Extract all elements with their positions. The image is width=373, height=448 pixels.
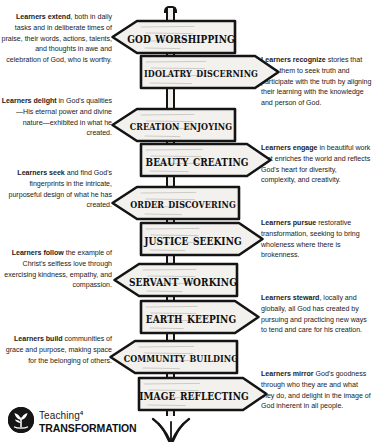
blurb-lead: Learners build <box>14 335 63 343</box>
signpost-arrow-image-reflecting[interactable]: Image Reflecting <box>137 377 269 411</box>
signpost-arrow-justice-seeking[interactable]: Justice Seeking <box>139 222 265 256</box>
blurb-lead: Learners extend <box>16 13 71 21</box>
sign-label: Idolatry Discerning <box>143 52 259 92</box>
sign-label: Servant Working <box>135 260 231 300</box>
signpost-arrow-earth-keeping[interactable]: Earth Keeping <box>139 300 261 334</box>
signpost-group: God WorshippingIdolatry DiscerningCreati… <box>95 0 295 448</box>
logo-wordmark: Teaching4 TRANSFORMATION <box>39 406 137 434</box>
signpost-arrow-servant-working[interactable]: Servant Working <box>113 263 239 297</box>
signpost-arrow-community-building[interactable]: Community Building <box>109 340 239 374</box>
signpost-arrow-order-discovering[interactable]: Order Discovering <box>111 186 241 220</box>
blurb-lead: Learners delight <box>2 97 57 105</box>
logo: Teaching4 TRANSFORMATION <box>8 406 137 434</box>
blurb-lead: Learners follow <box>12 249 64 257</box>
sign-label: Justice Seeking <box>143 219 243 259</box>
signpost-arrow-god-worshipping[interactable]: God Worshipping <box>111 20 237 54</box>
sign-label: Earth Keeping <box>143 297 239 337</box>
logo-word-transformation: TRANSFORMATION <box>39 423 137 434</box>
signpost-arrow-creation-enjoying[interactable]: Creation Enjoying <box>111 108 237 142</box>
signpost-arrow-idolatry-discerning[interactable]: Idolatry Discerning <box>139 55 281 89</box>
sign-label: Beauty Creating <box>143 140 251 180</box>
infographic-canvas: Learners extend, both in daily tasks and… <box>0 0 373 448</box>
signpost-arrow-beauty-creating[interactable]: Beauty Creating <box>139 143 273 177</box>
grass-tuft-icon <box>147 408 195 442</box>
blurb-lead: Learners seek <box>17 169 64 177</box>
logo-word-teaching: Teaching4 <box>39 410 83 421</box>
sign-label: Order Discovering <box>133 183 233 223</box>
sign-label: Community Building <box>131 337 231 377</box>
logo-superscript: 4 <box>80 410 83 416</box>
seedling-icon <box>8 407 34 433</box>
